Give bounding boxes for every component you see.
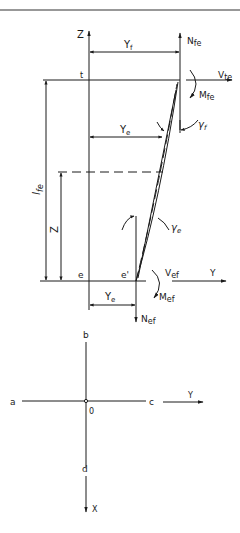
y-axis-label: Y <box>209 268 216 278</box>
lower-y-axis-label: Y <box>187 391 193 400</box>
mfe-moment-arc <box>190 70 196 98</box>
mfe-label: Mfe <box>199 90 215 102</box>
chord-line <box>138 90 176 278</box>
gamma-e-upper-arc <box>157 122 164 131</box>
mef-label: Mef <box>159 292 175 304</box>
bottom-node-deflected-label: e' <box>121 270 129 280</box>
nef-label: Nef <box>141 314 156 326</box>
label-d: d <box>82 464 88 474</box>
origin-node <box>84 399 87 402</box>
lower-labels: a b c d 0 Y X <box>10 330 193 514</box>
lower-diagram <box>22 342 203 512</box>
lower-x-axis-label: X <box>92 505 98 514</box>
yf-label: Yf <box>123 39 133 52</box>
bottom-node-label: e <box>78 270 84 280</box>
z-axis-label: Z <box>77 29 84 40</box>
label-a: a <box>10 397 16 407</box>
ye-lower-label: Ye <box>104 291 115 304</box>
top-node-label: t <box>80 71 83 80</box>
z-dimension-label: Z <box>49 226 60 233</box>
nfe-label: Nfe <box>187 36 202 48</box>
label-c: c <box>149 397 154 407</box>
gamma-f-label: γf <box>198 119 208 132</box>
vef-label: Vef <box>165 268 179 280</box>
lfe-label: lfe <box>30 184 45 195</box>
gamma-e-rotation-arc <box>122 216 134 230</box>
label-b: b <box>83 330 89 340</box>
gamma-e-label-arc <box>158 218 169 230</box>
gamma-e-label: γe <box>171 222 181 235</box>
upper-diagram <box>40 31 232 322</box>
structural-diagram: Z t Yf Nfe Vte Mfe γf Ye lfe Z γe e e' V… <box>0 0 240 533</box>
ye-upper-label: Ye <box>119 124 130 137</box>
gamma-f-rotation-arc <box>181 120 198 130</box>
origin-label: 0 <box>89 407 94 416</box>
